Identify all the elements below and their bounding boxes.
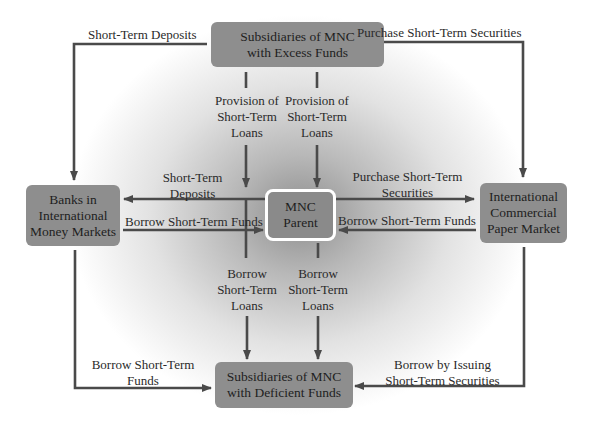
label-excess-to-banks: Short-Term Deposits [88,27,197,43]
node-banks-international-money-markets: Banks in International Money Markets [26,185,120,246]
label-provision-right: Provision of Short-Term Loans [282,93,352,141]
label-borrow-right: Borrow Short-Term Loans [283,266,353,314]
label-parent-to-cp: Purchase Short-Term Securities [345,169,470,201]
label-cp-to-deficient: Borrow by Issuing Short-Term Securities [380,357,505,389]
label-cp-to-parent: Borrow Short-Term Funds [338,213,476,229]
label-banks-to-parent: Borrow Short-Term Funds [125,214,263,230]
label-excess-to-cp: Purchase Short-Term Securities [357,25,521,41]
node-mnc-parent: MNC Parent [265,189,336,241]
label-banks-to-deficient: Borrow Short-Term Funds [88,357,198,389]
label-provision-left: Provision of Short-Term Loans [212,93,282,141]
label-parent-to-banks: Short-Term Deposits [155,170,230,202]
arrow-excess-to-banks [74,44,207,180]
label-borrow-left: Borrow Short-Term Loans [212,266,282,314]
node-subsidiaries-deficient-funds: Subsidiaries of MNC with Deficient Funds [215,362,353,408]
node-international-commercial-paper-market: International Commercial Paper Market [480,183,567,243]
